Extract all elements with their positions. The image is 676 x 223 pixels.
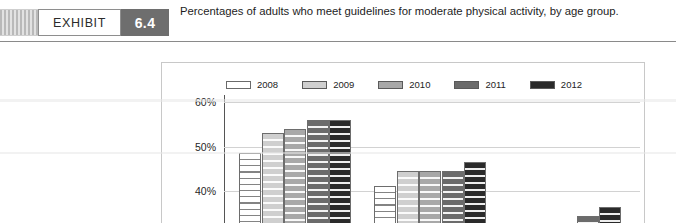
bar <box>464 162 486 223</box>
y-axis <box>224 95 225 223</box>
y-axis-tick-label: 60% <box>170 96 216 108</box>
bar <box>329 120 351 223</box>
bar <box>262 133 284 223</box>
bar <box>419 171 441 223</box>
bar <box>284 129 306 223</box>
bar <box>577 216 599 223</box>
bar <box>307 120 329 223</box>
bar <box>239 153 261 223</box>
plot-area: 60%50%40%30% <box>162 63 645 223</box>
bar <box>442 171 464 223</box>
bar <box>397 171 419 223</box>
y-axis-tick-label: 40% <box>170 185 216 197</box>
exhibit-header: EXHIBIT 6.4 Percentages of adults who me… <box>0 0 676 41</box>
gridline <box>224 102 640 103</box>
striped-decoration-icon <box>0 9 38 36</box>
exhibit-label: EXHIBIT <box>38 9 121 36</box>
bar <box>374 186 396 223</box>
bar <box>599 207 621 223</box>
chart-panel: 20082009201020112012 60%50%40%30% <box>161 62 645 223</box>
header-divider <box>0 41 676 42</box>
exhibit-number: 6.4 <box>121 9 169 36</box>
y-axis-tick-label: 50% <box>170 141 216 153</box>
exhibit-caption: Percentages of adults who meet guideline… <box>180 4 650 20</box>
exhibit-badge: EXHIBIT 6.4 <box>0 9 169 36</box>
